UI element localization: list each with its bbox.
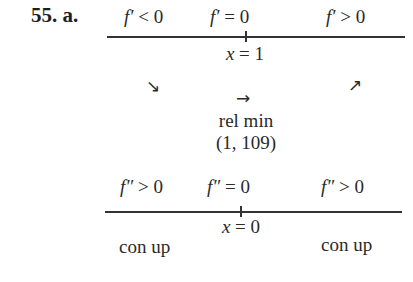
fprime-symbol: f′ [124, 6, 133, 27]
fprime-sign-right: f′ > 0 [326, 6, 365, 28]
fdoubleprime-symbol: f″ [207, 176, 220, 197]
critical-point-tick [245, 31, 247, 42]
flat-arrow-icon: → [236, 88, 250, 108]
fprime-sign-left: f′ < 0 [124, 6, 163, 28]
decreasing-arrow-icon: ↘ [146, 76, 160, 96]
fprime-sign-middle: f′ = 0 [210, 6, 249, 28]
extremum-point: (1, 109) [216, 132, 276, 154]
fprime-relation: < 0 [138, 6, 163, 27]
critical-value: = 0 [235, 216, 260, 237]
critical-value: = 1 [239, 43, 264, 64]
fdoubleprime-relation: > 0 [138, 176, 163, 197]
concavity-right: con up [321, 234, 372, 256]
fdoubleprime-symbol: f″ [120, 176, 133, 197]
extremum-label: rel min [219, 110, 273, 132]
variable-x: x [226, 43, 234, 64]
number-line-bottom [105, 211, 402, 213]
inflection-candidate-label: x = 0 [222, 216, 260, 238]
number-line-top [107, 36, 405, 38]
fprime-symbol: f′ [326, 6, 335, 27]
fdoubleprime-sign-middle: f″ = 0 [207, 176, 250, 198]
critical-point-label: x = 1 [226, 43, 264, 65]
fprime-relation: > 0 [340, 6, 365, 27]
increasing-arrow-icon: ↗ [348, 75, 362, 95]
concavity-left: con up [119, 236, 170, 258]
fdoubleprime-relation: > 0 [339, 176, 364, 197]
variable-x: x [222, 216, 230, 237]
fdoubleprime-sign-left: f″ > 0 [120, 176, 163, 198]
fdoubleprime-symbol: f″ [321, 176, 334, 197]
problem-label: 55. a. [31, 3, 78, 28]
fdoubleprime-sign-right: f″ > 0 [321, 176, 364, 198]
fdoubleprime-relation: = 0 [225, 176, 250, 197]
fprime-symbol: f′ [210, 6, 219, 27]
fprime-relation: = 0 [224, 6, 249, 27]
